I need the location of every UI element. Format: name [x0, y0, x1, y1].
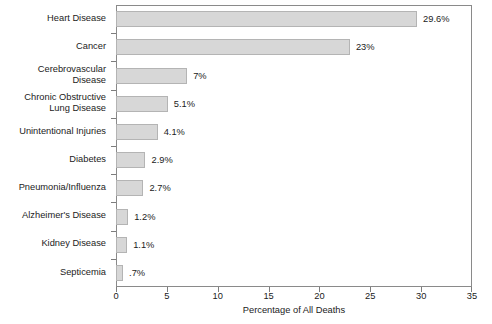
bar-value-label: 23% — [356, 39, 375, 55]
category-label: Diabetes — [0, 154, 106, 165]
category-label: Heart Disease — [0, 13, 106, 24]
bar-value-label: 5.1% — [174, 96, 195, 112]
x-tick-label: 25 — [350, 290, 390, 302]
x-axis-title: Percentage of All Deaths — [116, 305, 472, 315]
bar — [116, 39, 350, 55]
category-label: Pneumonia/Influenza — [0, 182, 106, 193]
bars-container: 29.6%23%7%5.1%4.1%2.9%2.7%1.2%1.1%.7% — [116, 5, 472, 287]
bar — [116, 209, 128, 225]
bar-value-label: .7% — [129, 265, 145, 281]
bar-value-label: 2.7% — [149, 180, 170, 196]
bar-value-label: 4.1% — [164, 124, 185, 140]
x-tick-label: 0 — [96, 290, 136, 302]
bar — [116, 180, 143, 196]
bar-value-label: 29.6% — [423, 11, 449, 27]
category-axis-labels: Heart DiseaseCancerCerebrovascular Disea… — [0, 5, 106, 287]
category-label: Septicemia — [0, 267, 106, 278]
bar — [116, 96, 168, 112]
bar — [116, 124, 158, 140]
x-tick-label: 20 — [299, 290, 339, 302]
bar-chart: Heart DiseaseCancerCerebrovascular Disea… — [0, 0, 492, 324]
category-label: Kidney Disease — [0, 238, 106, 249]
bar — [116, 237, 127, 253]
x-tick-label: 35 — [452, 290, 492, 302]
bar-value-label: 7% — [193, 68, 206, 84]
x-tick-label: 10 — [198, 290, 238, 302]
category-label: Cancer — [0, 41, 106, 52]
x-tick-label: 5 — [147, 290, 187, 302]
bar — [116, 11, 417, 27]
category-label: Unintentional Injuries — [0, 126, 106, 137]
bar-value-label: 2.9% — [151, 152, 172, 168]
category-label: Chronic Obstructive Lung Disease — [0, 92, 106, 113]
bar — [116, 68, 187, 84]
bar — [116, 152, 145, 168]
x-tick-label: 15 — [249, 290, 289, 302]
bar-value-label: 1.1% — [133, 237, 154, 253]
bar-value-label: 1.2% — [134, 209, 155, 225]
category-label: Cerebrovascular Disease — [0, 64, 106, 85]
x-tick-label: 30 — [401, 290, 441, 302]
category-label: Alzheimer's Disease — [0, 210, 106, 221]
bar — [116, 265, 123, 281]
